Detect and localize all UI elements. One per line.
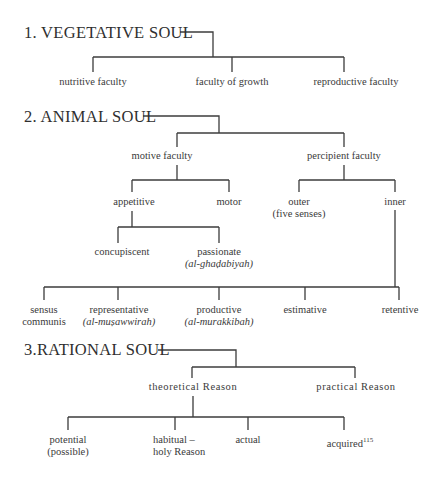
outer-label: outer [273, 196, 326, 208]
motor-label: motor [216, 196, 241, 208]
motive-faculty-label: motive faculty [132, 150, 193, 162]
outer-senses-label: outer (five senses) [273, 196, 326, 220]
sensus-text: sensus [22, 304, 66, 316]
nutritive-faculty-label: nutritive faculty [59, 76, 126, 88]
productive-arabic-term: (al-murakkibah) [185, 316, 254, 328]
rational-soul-title: 3.RATIONAL SOUL [24, 340, 170, 360]
reproductive-faculty-label: reproductive faculty [314, 76, 399, 88]
vegetative-soul-title: 1. VEGETATIVE SOUL [24, 23, 193, 43]
holy-reason-text: holy Reason [153, 446, 205, 458]
habitual-text: habitual – [153, 434, 205, 446]
possible-text: (possible) [47, 446, 88, 458]
potential-text: potential [47, 434, 88, 446]
percipient-faculty-label: percipient faculty [307, 150, 381, 162]
faculty-of-growth-label: faculty of growth [196, 76, 269, 88]
five-senses-note: (five senses) [273, 208, 326, 220]
soul-faculties-diagram: 1. VEGETATIVE SOUL nutritive faculty fac… [0, 0, 442, 477]
communis-text: communis [22, 316, 66, 328]
productive-label: productive (al-murakkibah) [185, 304, 254, 328]
sensus-communis-label: sensus communis [22, 304, 66, 328]
representative-label: representative (al-muṣawwirah) [83, 304, 155, 328]
connector-lines [0, 0, 442, 477]
habitual-label: habitual – holy Reason [153, 434, 205, 458]
estimative-label: estimative [283, 304, 326, 316]
acquired-text: acquired [327, 438, 363, 449]
acquired-label: acquired115 [327, 434, 373, 450]
animal-soul-title: 2. ANIMAL SOUL [24, 107, 156, 127]
theoretical-reason-label: theoretical Reason [149, 381, 238, 393]
concupiscent-label: concupiscent [95, 246, 150, 258]
retentive-label: retentive [382, 304, 419, 316]
passionate-text: passionate [185, 246, 253, 258]
representative-arabic-term: (al-muṣawwirah) [83, 316, 155, 328]
footnote-marker: 115 [363, 436, 373, 444]
passionate-label: passionate (al-ghaḍabiyah) [185, 246, 253, 270]
appetitive-label: appetitive [113, 196, 154, 208]
productive-text: productive [185, 304, 254, 316]
representative-text: representative [83, 304, 155, 316]
passionate-arabic-term: (al-ghaḍabiyah) [185, 258, 253, 270]
practical-reason-label: practical Reason [316, 381, 395, 393]
potential-label: potential (possible) [47, 434, 88, 458]
actual-label: actual [235, 434, 260, 446]
inner-label: inner [384, 196, 406, 208]
